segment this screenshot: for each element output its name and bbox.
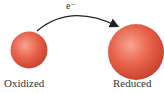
electron-transfer-arrow [37,16,117,31]
reduced-label: Reduced [113,77,151,89]
electron-label: e⁻ [66,0,76,11]
oxidized-label: Oxidized [4,77,44,89]
reduced-sphere [108,24,164,80]
oxidized-sphere [11,32,48,69]
